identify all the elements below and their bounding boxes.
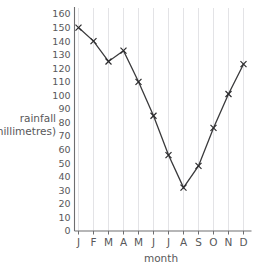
chart-canvas: 1601501401301201101009080706050403020100…: [0, 0, 256, 266]
y-tick-label-160: 160: [52, 8, 70, 19]
y-tick-label-30: 30: [58, 185, 70, 196]
rainfall-data-markers: [76, 25, 247, 191]
y-tick-label-120: 120: [52, 63, 70, 74]
x-tick-label-march: M: [104, 236, 113, 248]
y-tick-label-80: 80: [58, 117, 70, 128]
x-tick-label-november: N: [225, 236, 233, 248]
x-tick-label-june: J: [151, 236, 155, 248]
x-axis-tick-labels: JFMAMJJASOND: [76, 231, 248, 248]
y-tick-label-150: 150: [52, 22, 70, 33]
x-tick-label-july: J: [166, 236, 170, 248]
y-tick-label-110: 110: [52, 76, 70, 87]
x-tick-label-may: M: [134, 236, 143, 248]
y-tick-label-140: 140: [52, 36, 70, 47]
rainfall-series: [76, 25, 247, 191]
x-tick-label-january: J: [76, 236, 80, 248]
y-tick-label-0: 0: [64, 225, 70, 236]
x-axis-title: month: [144, 252, 178, 264]
y-tick-label-10: 10: [58, 212, 70, 223]
y-tick-label-20: 20: [58, 198, 70, 209]
x-tick-label-february: F: [90, 236, 96, 248]
x-tick-label-october: O: [209, 236, 217, 248]
vertical-gridlines: [79, 8, 244, 231]
y-tick-label-70: 70: [58, 130, 70, 141]
y-tick-label-90: 90: [58, 103, 70, 114]
y-tick-label-50: 50: [58, 158, 70, 169]
chart-axes: [75, 7, 252, 231]
x-tick-label-april: A: [120, 236, 128, 248]
x-tick-label-december: D: [239, 236, 247, 248]
rainfall-line-path: [79, 28, 244, 188]
y-tick-label-130: 130: [52, 49, 70, 60]
y-axis-title-line-1: rainfall: [20, 112, 56, 124]
y-axis-title-line-2: (millimetres): [0, 125, 56, 137]
x-tick-label-september: S: [195, 236, 202, 248]
x-tick-label-august: A: [180, 236, 188, 248]
rainfall-line-chart: 1601501401301201101009080706050403020100…: [0, 0, 256, 266]
y-tick-label-40: 40: [58, 171, 70, 182]
y-tick-label-60: 60: [58, 144, 70, 155]
y-tick-label-100: 100: [52, 90, 70, 101]
